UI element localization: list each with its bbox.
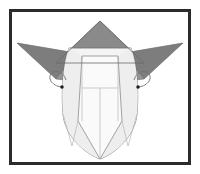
left-eye-dot (60, 85, 63, 88)
right-eye-dot (136, 85, 139, 88)
origami-cow-head-illustration (0, 0, 200, 174)
origami-diagram-figure (0, 0, 200, 174)
